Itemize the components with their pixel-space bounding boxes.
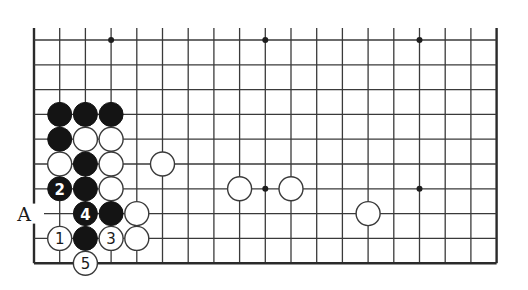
white-stone [151, 152, 175, 176]
white-stone [48, 152, 72, 176]
black-stone [99, 202, 123, 226]
move-number: 1 [55, 230, 65, 248]
point-label: A [16, 203, 31, 225]
black-stone-icon [48, 127, 72, 151]
white-stone [125, 202, 149, 226]
white-stone [228, 177, 252, 201]
move-number: 2 [54, 181, 64, 199]
white-stone [73, 127, 97, 151]
black-stone-icon [99, 202, 123, 226]
go-board-diagram: 24135 A [0, 0, 528, 290]
move-number: 3 [106, 230, 116, 248]
white-stone-icon [48, 152, 72, 176]
move-number: 4 [80, 206, 90, 224]
star-point-icon [108, 37, 114, 43]
black-stone: 2 [48, 177, 72, 201]
black-stone-icon [99, 102, 123, 126]
white-stone [99, 127, 123, 151]
black-stone [99, 102, 123, 126]
star-point-icon [417, 37, 423, 43]
move-number: 5 [81, 255, 91, 273]
star-point-icon [417, 186, 423, 192]
black-stone-icon [48, 102, 72, 126]
white-stone-icon [151, 152, 175, 176]
white-stone [279, 177, 303, 201]
star-point-icon [262, 186, 268, 192]
white-stone-icon [73, 127, 97, 151]
black-stone [73, 226, 97, 250]
white-stone [99, 177, 123, 201]
white-stone [99, 152, 123, 176]
white-stone-icon [356, 202, 380, 226]
black-stone [48, 127, 72, 151]
black-stone [73, 177, 97, 201]
black-stone [73, 102, 97, 126]
white-stone [356, 202, 380, 226]
white-stone: 1 [48, 226, 72, 250]
black-stone: 4 [73, 202, 97, 226]
black-stone [48, 102, 72, 126]
star-point-icon [262, 37, 268, 43]
black-stone-icon [73, 152, 97, 176]
white-stone-icon [99, 177, 123, 201]
white-stone-icon [99, 152, 123, 176]
white-stone-icon [125, 202, 149, 226]
black-stone-icon [73, 102, 97, 126]
white-stone-icon [125, 226, 149, 250]
black-stone-icon [73, 177, 97, 201]
black-stone-icon [73, 226, 97, 250]
white-stone-icon [228, 177, 252, 201]
white-stone [125, 226, 149, 250]
white-stone-icon [279, 177, 303, 201]
white-stone: 5 [73, 251, 97, 275]
white-stone: 3 [99, 226, 123, 250]
white-stone-icon [99, 127, 123, 151]
black-stone [73, 152, 97, 176]
letter-labels: A [16, 203, 31, 225]
